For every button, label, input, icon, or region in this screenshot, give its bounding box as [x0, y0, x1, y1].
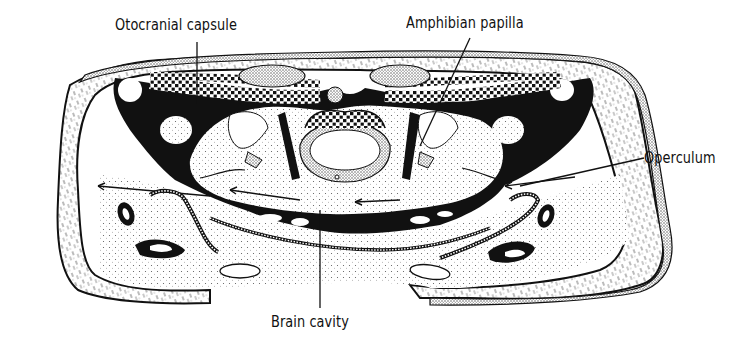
label-operculum: Operculum: [644, 149, 716, 167]
dorsal-gland-left: [239, 65, 305, 87]
anatomical-cross-section-diagram: [0, 0, 754, 351]
label-amphibian-papilla: Amphibian papilla: [406, 14, 524, 32]
brain: [300, 111, 390, 182]
label-otocranial-capsule: Otocranial capsule: [115, 16, 237, 34]
dorsal-gland-right: [370, 65, 430, 87]
label-brain-cavity: Brain cavity: [271, 313, 349, 331]
